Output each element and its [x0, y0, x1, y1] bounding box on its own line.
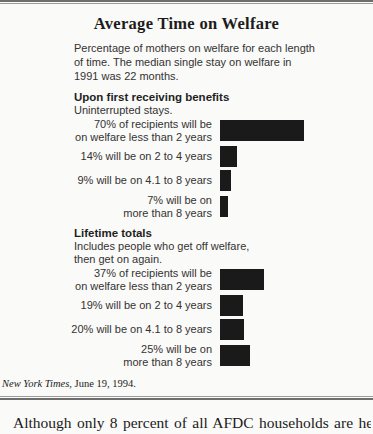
- source-citation: New York Times, June 19, 1994.: [2, 377, 373, 390]
- bar-label: 37% of recipients will be on welfare les…: [62, 267, 220, 292]
- bar-70-percent: [220, 120, 304, 141]
- bar-label: 20% will be on 4.1 to 8 years: [62, 323, 220, 336]
- bar-row: 37% of recipients will be on welfare les…: [62, 267, 373, 292]
- chart-group-first-benefits: Upon first receiving benefits Uninterrup…: [0, 91, 373, 219]
- figure-subtitle: Percentage of mothers on welfare for eac…: [74, 41, 324, 83]
- bar-14-percent: [220, 146, 237, 167]
- bar-20-percent: [220, 319, 244, 340]
- bar-19-percent: [220, 295, 243, 316]
- bar-row: 19% will be on 2 to 4 years: [62, 295, 373, 316]
- bar-row: 9% will be on 4.1 to 8 years: [62, 170, 373, 191]
- bar-row: 20% will be on 4.1 to 8 years: [62, 319, 373, 340]
- bar-row: 25% will be on more than 8 years: [62, 343, 373, 368]
- bar-label-line: more than 8 years: [62, 207, 212, 220]
- bar-label-line: on welfare less than 2 years: [62, 131, 212, 144]
- group-heading: Lifetime totals: [74, 227, 373, 240]
- figure-title: Average Time on Welfare: [0, 14, 373, 34]
- bar-rows: 37% of recipients will be on welfare les…: [0, 267, 373, 368]
- bar-row: 7% will be on more than 8 years: [62, 194, 373, 219]
- bar-label: 9% will be on 4.1 to 8 years: [62, 174, 220, 187]
- subtitle-line: 1991 was 22 months.: [74, 69, 324, 83]
- source-date: June 19, 1994.: [72, 378, 136, 389]
- bar-7-percent: [220, 196, 228, 217]
- bar-25-percent: [220, 345, 250, 366]
- bar-label: 7% will be on more than 8 years: [62, 194, 220, 219]
- group-subheading: Uninterrupted stays.: [74, 104, 373, 117]
- bottom-double-rule: [0, 396, 373, 400]
- group-subheading-line: Includes people who get off welfare,: [74, 240, 373, 253]
- group-subheading: Includes people who get off welfare, the…: [74, 240, 373, 266]
- chart-group-lifetime-totals: Lifetime totals Includes people who get …: [0, 227, 373, 368]
- bar-row: 14% will be on 2 to 4 years: [62, 146, 373, 167]
- bar-label-line: 37% of recipients will be: [62, 267, 212, 280]
- bar-label-line: 9% will be on 4.1 to 8 years: [62, 174, 212, 187]
- bar-label-line: more than 8 years: [62, 356, 212, 369]
- body-paragraph-cutoff: Although only 8 percent of all AFDC hous…: [2, 412, 371, 433]
- subtitle-line: of time. The median single stay on welfa…: [74, 55, 324, 69]
- bar-label-line: 25% will be on: [62, 343, 212, 356]
- group-subheading-line: then get on again.: [74, 253, 373, 266]
- source-publication: New York Times,: [2, 378, 72, 389]
- bar-37-percent: [220, 269, 264, 290]
- group-subheading-line: Uninterrupted stays.: [74, 104, 373, 117]
- bar-label: 19% will be on 2 to 4 years: [62, 299, 220, 312]
- bar-label-line: on welfare less than 2 years: [62, 280, 212, 293]
- bar-label-line: 19% will be on 2 to 4 years: [62, 299, 212, 312]
- bar-label: 70% of recipients will be on welfare les…: [62, 118, 220, 143]
- book-page-scan: { "figure": { "title": "Average Time on …: [0, 0, 373, 434]
- bar-label-line: 20% will be on 4.1 to 8 years: [62, 323, 212, 336]
- bar-label: 14% will be on 2 to 4 years: [62, 150, 220, 163]
- bar-label: 25% will be on more than 8 years: [62, 343, 220, 368]
- bar-9-percent: [220, 170, 231, 191]
- top-double-rule: [0, 0, 373, 4]
- bar-label-line: 7% will be on: [62, 194, 212, 207]
- rule-line-thick: [0, 398, 373, 400]
- subtitle-line: Percentage of mothers on welfare for eac…: [74, 41, 324, 55]
- bar-label-line: 14% will be on 2 to 4 years: [62, 150, 212, 163]
- bar-label-line: 70% of recipients will be: [62, 118, 212, 131]
- bar-row: 70% of recipients will be on welfare les…: [62, 118, 373, 143]
- bar-rows: 70% of recipients will be on welfare les…: [0, 118, 373, 219]
- rule-line-thin: [0, 3, 373, 4]
- group-heading: Upon first receiving benefits: [74, 91, 373, 104]
